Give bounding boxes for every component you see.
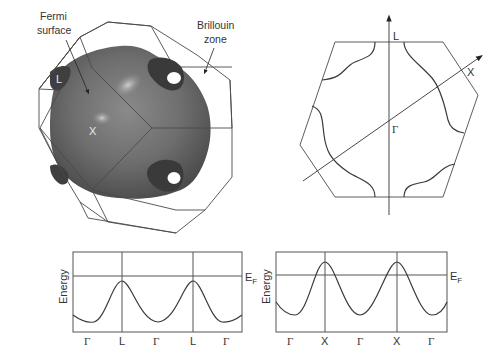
cross-section-panel: L X Γ [300, 18, 480, 215]
energy-axis-label: Energy [57, 269, 69, 304]
tick-x: X [321, 335, 329, 347]
gamma-center-label: Γ [392, 123, 398, 135]
fermi-surface-3d-panel: Fermi surface Brillouin zone X L [37, 10, 235, 233]
band-curve [276, 262, 447, 315]
k-point-ticks: Γ L Γ L Γ [84, 335, 229, 347]
fermi-surface-label-line2: surface [37, 24, 72, 36]
axis-x-label: X [467, 66, 475, 78]
band-plot-gamma-l: Energy EF Γ L Γ L Γ [57, 252, 257, 347]
brillouin-zone-label-line2: zone [204, 33, 227, 45]
tick-gamma: Γ [84, 335, 90, 347]
tick-gamma: Γ [357, 335, 363, 347]
point-l-label: L [56, 73, 62, 85]
fermi-surface [50, 46, 211, 199]
tick-gamma: Γ [153, 335, 159, 347]
tick-gamma: Γ [223, 335, 229, 347]
point-x-label: X [89, 125, 97, 137]
energy-axis-label: Energy [260, 269, 272, 304]
figure-canvas: Fermi surface Brillouin zone X L L X Γ E… [0, 0, 494, 360]
fermi-level-label: EF [450, 270, 462, 285]
fermi-level-label: EF [245, 271, 257, 286]
axis-l-label: L [393, 30, 399, 42]
brillouin-zone-label-line1: Brillouin [197, 19, 235, 31]
tick-l: L [119, 335, 125, 347]
x-direction-axis [303, 57, 480, 181]
fermi-surface-label-line1: Fermi [40, 10, 67, 22]
tick-gamma: Γ [428, 335, 434, 347]
brillouin-zone-arrow [205, 48, 214, 72]
k-point-ticks: Γ X Γ X Γ [287, 335, 434, 347]
tick-x: X [393, 335, 401, 347]
band-plot-gamma-x: Energy EF Γ X Γ X Γ [260, 252, 462, 347]
tick-gamma: Γ [287, 335, 293, 347]
fermi-contours [312, 42, 464, 197]
tick-l: L [190, 335, 196, 347]
band-curve [73, 281, 242, 322]
